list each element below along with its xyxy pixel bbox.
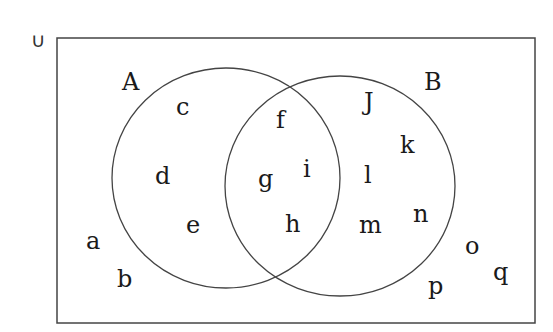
element-m: m bbox=[359, 211, 382, 239]
element-d: d bbox=[155, 162, 170, 190]
element-a: a bbox=[86, 227, 100, 255]
element-f: f bbox=[276, 106, 287, 134]
universal-set-label: ∪ bbox=[31, 28, 46, 52]
element-p: p bbox=[428, 272, 443, 300]
venn-diagram: ∪ A B c d e f g i h J k l m n a b o p q bbox=[0, 0, 553, 332]
element-g: g bbox=[258, 165, 273, 193]
element-o: o bbox=[465, 232, 479, 260]
set-a-label: A bbox=[121, 68, 140, 96]
element-n: n bbox=[413, 200, 428, 228]
element-h: h bbox=[285, 210, 300, 238]
element-k: k bbox=[400, 131, 415, 159]
set-b-label: B bbox=[424, 68, 442, 96]
element-c: c bbox=[176, 93, 189, 121]
element-j: J bbox=[361, 88, 374, 116]
element-q: q bbox=[493, 258, 508, 286]
element-e: e bbox=[186, 211, 200, 239]
element-l: l bbox=[364, 161, 372, 189]
element-i: i bbox=[303, 155, 311, 183]
element-b: b bbox=[117, 265, 132, 293]
